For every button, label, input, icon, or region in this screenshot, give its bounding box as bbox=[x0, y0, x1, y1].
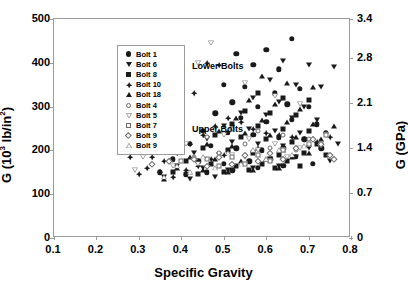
data-point bbox=[250, 168, 256, 173]
data-point bbox=[238, 135, 243, 140]
x-tick-label: 0.1 bbox=[33, 243, 73, 255]
x-tick-label: 0.8 bbox=[330, 243, 370, 255]
y-left-tick-label: 100 bbox=[10, 187, 50, 199]
data-point bbox=[246, 137, 252, 142]
x-tick-label: 0.4 bbox=[160, 243, 200, 255]
open-up-triangle-icon bbox=[121, 143, 136, 148]
data-point bbox=[212, 174, 218, 179]
data-point bbox=[208, 40, 214, 45]
data-point bbox=[331, 124, 337, 129]
x-tick-label: 0.3 bbox=[118, 243, 158, 255]
data-point bbox=[276, 148, 282, 153]
data-point bbox=[297, 86, 302, 91]
y-right-tick-label: 3.4 bbox=[357, 12, 397, 24]
data-point bbox=[310, 84, 316, 89]
y-left-tick-label: 200 bbox=[10, 143, 50, 155]
data-point bbox=[268, 150, 273, 155]
filled-up-triangle-icon bbox=[121, 92, 136, 97]
legend-item-bolt-8-2[interactable]: Bolt 8 bbox=[121, 69, 182, 79]
legend-item-bolt-9-8[interactable]: Bolt 9 bbox=[121, 131, 182, 141]
y-left-tick bbox=[50, 107, 54, 108]
data-point bbox=[332, 157, 337, 162]
y-left-tick bbox=[50, 19, 54, 20]
data-point bbox=[230, 161, 235, 166]
data-point bbox=[132, 167, 138, 172]
data-point bbox=[259, 73, 265, 78]
data-point bbox=[301, 143, 307, 148]
legend-item-bolt-9-9[interactable]: Bolt 9 bbox=[121, 141, 182, 151]
data-point bbox=[255, 128, 260, 133]
data-point bbox=[250, 148, 256, 153]
data-point bbox=[195, 161, 201, 166]
y-right-tick bbox=[349, 193, 353, 194]
data-point bbox=[335, 141, 341, 146]
legend-item-bolt-5-6[interactable]: Bolt 5 bbox=[121, 110, 182, 120]
data-point bbox=[200, 146, 205, 151]
y-left-tick bbox=[50, 63, 54, 64]
data-point bbox=[255, 104, 260, 109]
x-tick-label: 0.5 bbox=[203, 243, 243, 255]
x-tick bbox=[96, 236, 97, 240]
x-axis-title: Specific Gravity bbox=[0, 265, 407, 280]
filled-circle-icon bbox=[121, 51, 136, 56]
data-point bbox=[174, 163, 180, 168]
data-point bbox=[200, 154, 206, 159]
data-point bbox=[246, 98, 252, 103]
legend-item-bolt-18-4[interactable]: Bolt 18 bbox=[121, 90, 182, 100]
data-point bbox=[294, 146, 299, 151]
data-point bbox=[242, 80, 248, 85]
data-point bbox=[217, 155, 222, 160]
data-point bbox=[285, 102, 290, 107]
x-tick bbox=[181, 236, 182, 240]
legend-item-label: Bolt 8 bbox=[136, 70, 157, 79]
data-point bbox=[259, 117, 265, 122]
x-tick bbox=[351, 236, 352, 240]
data-point bbox=[311, 137, 316, 142]
data-point bbox=[200, 168, 206, 173]
legend-item-bolt-6-1[interactable]: Bolt 6 bbox=[121, 59, 182, 69]
data-point bbox=[293, 113, 298, 118]
data-point bbox=[298, 163, 303, 168]
legend-item-bolt-4-5[interactable]: Bolt 4 bbox=[121, 100, 182, 110]
data-point bbox=[310, 122, 316, 127]
data-point bbox=[204, 135, 209, 140]
data-point bbox=[225, 115, 231, 121]
data-point bbox=[238, 161, 244, 166]
filled-plus-diamond-icon bbox=[121, 82, 136, 88]
y-left-tick-label: 0 bbox=[10, 231, 50, 243]
data-point bbox=[187, 176, 193, 181]
data-point bbox=[187, 170, 193, 175]
legend-item-bolt-1-0[interactable]: Bolt 1 bbox=[121, 49, 182, 59]
data-point bbox=[264, 137, 269, 142]
legend-item-label: Bolt 1 bbox=[136, 50, 157, 59]
data-point bbox=[234, 51, 239, 56]
data-point bbox=[243, 152, 248, 157]
x-tick bbox=[139, 236, 140, 240]
data-point bbox=[229, 144, 235, 149]
data-point bbox=[323, 133, 328, 138]
data-point bbox=[276, 67, 281, 72]
data-point bbox=[161, 174, 167, 179]
data-point bbox=[331, 65, 337, 70]
data-point bbox=[242, 108, 247, 113]
x-tick bbox=[266, 236, 267, 240]
x-tick bbox=[224, 236, 225, 240]
data-point bbox=[280, 58, 286, 63]
data-point bbox=[166, 159, 171, 164]
legend-item-bolt-10-3[interactable]: Bolt 10 bbox=[121, 80, 182, 90]
y-left-tick-label: 300 bbox=[10, 100, 50, 112]
y-left-tick bbox=[50, 150, 54, 151]
data-point bbox=[293, 135, 299, 140]
open-square-icon bbox=[121, 123, 136, 128]
y-left-tick-label: 500 bbox=[10, 12, 50, 24]
y-right-tick bbox=[349, 19, 353, 20]
x-tick bbox=[309, 236, 310, 240]
legend-item-bolt-7-7[interactable]: Bolt 7 bbox=[121, 120, 182, 130]
data-point bbox=[306, 128, 311, 133]
open-down-triangle-icon bbox=[121, 113, 136, 118]
data-point bbox=[306, 98, 311, 103]
y-right-tick-label: 1.4 bbox=[357, 141, 397, 153]
y-right-tick-label: 0 bbox=[357, 231, 397, 243]
y-left-tick-label: 400 bbox=[10, 56, 50, 68]
